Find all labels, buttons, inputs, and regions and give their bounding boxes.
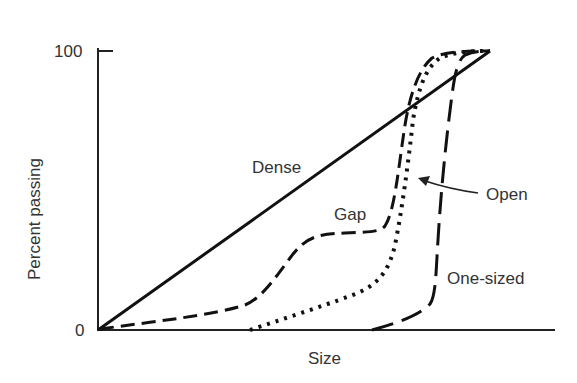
arrowhead-icon [418,176,430,186]
x-axis-label: Size [308,350,341,367]
open-arrow [422,180,478,193]
label-dense: Dense [252,159,301,176]
y-axis-label: Percent passing [26,158,43,280]
label-open: Open [486,186,528,203]
label-gap: Gap [334,206,366,223]
y-tick-label-0: 0 [75,322,84,339]
series-open [250,51,490,330]
y-tick-label-100: 100 [54,43,82,60]
label-one-sized: One-sized [447,270,524,287]
series-dense [98,51,490,330]
